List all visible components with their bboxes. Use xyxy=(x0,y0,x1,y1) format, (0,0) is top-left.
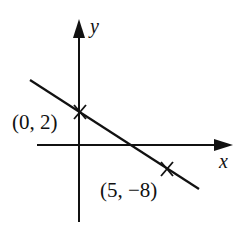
y-axis-arrow-icon xyxy=(73,19,85,38)
y-axis-label: y xyxy=(88,15,99,38)
point-label-0-2: (0, 2) xyxy=(12,110,58,134)
point-label-5-neg8: (5, −8) xyxy=(100,178,157,202)
graph-diagram: y x (0, 2) (5, −8) xyxy=(0,0,247,229)
x-axis-label: x xyxy=(218,150,228,172)
plotted-line xyxy=(30,80,199,189)
point-marker-5-neg8 xyxy=(161,162,173,176)
x-axis xyxy=(37,139,233,151)
y-axis xyxy=(73,19,85,222)
